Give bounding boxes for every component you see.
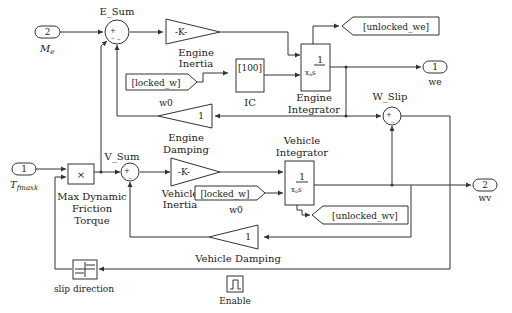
engine-integrator[interactable]: 1 xos xyxy=(301,44,330,91)
svg-text:–: – xyxy=(391,118,395,126)
svg-text:xos: xos xyxy=(305,69,316,77)
gain-vehicle-inertia[interactable]: -K- xyxy=(171,158,220,186)
inport-tfmaxk-label: Tfmaxk xyxy=(10,179,38,192)
e-sum-label: E_Sum xyxy=(99,6,135,18)
svg-text:1: 1 xyxy=(432,62,438,72)
svg-text:1: 1 xyxy=(299,172,305,182)
engine-integrator-label-1: Engine xyxy=(296,92,332,103)
sum-w-slip[interactable]: + – xyxy=(383,107,401,126)
product-label-2: Friction xyxy=(72,203,113,214)
svg-text:2: 2 xyxy=(45,27,51,37)
engine-inertia-label-1: Engine xyxy=(178,47,214,58)
inport-me[interactable]: 2 xyxy=(35,26,60,38)
svg-text:1: 1 xyxy=(245,232,251,242)
vehicle-inertia-label-2: Inertia xyxy=(163,199,197,210)
svg-text:[unlocked_we]: [unlocked_we] xyxy=(363,22,429,33)
outport-we-label: we xyxy=(428,77,441,87)
from-locked-w-2[interactable]: [locked_w] xyxy=(195,186,265,200)
v-sum-label: V_Sum xyxy=(104,151,141,163)
sum-v-sum[interactable]: + – xyxy=(121,163,139,182)
inport-me-label: Me xyxy=(39,43,54,56)
svg-text:1: 1 xyxy=(198,111,204,121)
simulink-diagram: 2 Me 1 Tfmaxk 1 we 2 wv + – – E_Sum + – … xyxy=(0,0,512,313)
outport-wv[interactable]: 2 xyxy=(473,179,497,191)
product-label-1: Max Dynamic xyxy=(57,191,127,202)
enable-label: Enable xyxy=(219,296,251,306)
svg-text:–: – xyxy=(128,174,132,182)
engine-damping-label-2: Damping xyxy=(163,144,210,155)
ic-label: IC xyxy=(244,97,256,108)
svg-text:-K-: -K- xyxy=(178,167,190,177)
vehicle-inertia-label-1: Vehicle xyxy=(161,188,199,199)
engine-damping-w0-label: w0 xyxy=(159,98,173,108)
from-locked-w-2-label: w0 xyxy=(229,205,243,215)
svg-text:1: 1 xyxy=(317,55,323,65)
svg-text:[100]: [100] xyxy=(238,63,262,73)
svg-text:1: 1 xyxy=(21,164,27,174)
svg-text:2: 2 xyxy=(482,180,488,190)
svg-text:[locked_w]: [locked_w] xyxy=(131,78,180,89)
slip-direction-label: slip direction xyxy=(54,284,114,294)
sum-e-sum[interactable]: + – – xyxy=(105,20,129,44)
inport-tfmaxk[interactable]: 1 xyxy=(12,163,36,175)
w-slip-label: W_Slip xyxy=(373,91,408,103)
gain-vehicle-damping[interactable]: 1 xyxy=(209,225,258,249)
svg-text:xos: xos xyxy=(291,186,302,194)
engine-damping-label-1: Engine xyxy=(168,132,204,143)
product-label-3: Torque xyxy=(74,215,110,226)
goto-unlocked-we[interactable]: [unlocked_we] xyxy=(342,17,439,35)
engine-integrator-label-2: Integrator xyxy=(288,104,341,115)
from-locked-w-1[interactable]: [locked_w] xyxy=(126,74,197,90)
vehicle-damping-label: Vehicle Damping xyxy=(194,253,281,264)
vehicle-integrator-label-2: Integrator xyxy=(276,147,329,158)
svg-text:×: × xyxy=(77,169,85,180)
svg-text:-K-: -K- xyxy=(175,27,187,37)
outport-wv-label: wv xyxy=(479,193,493,203)
goto-unlocked-wv[interactable]: [unlocked_wv] xyxy=(312,206,408,224)
vehicle-integrator-label-1: Vehicle xyxy=(283,135,321,146)
ic-block[interactable]: [100] xyxy=(236,59,264,92)
svg-text:[unlocked_wv]: [unlocked_wv] xyxy=(332,211,398,222)
svg-text:[locked_w]: [locked_w] xyxy=(200,189,249,200)
engine-inertia-label-2: Inertia xyxy=(179,58,213,69)
product-max-dynamic-friction[interactable]: × xyxy=(68,164,94,184)
outport-we[interactable]: 1 xyxy=(423,61,447,73)
svg-text:–: – xyxy=(117,35,121,43)
vehicle-integrator[interactable]: 1 xos xyxy=(285,161,314,205)
sign-block[interactable] xyxy=(73,260,97,279)
svg-text:–: – xyxy=(111,34,115,42)
enable-block[interactable] xyxy=(227,276,243,292)
gain-engine-inertia[interactable]: -K- xyxy=(166,19,220,44)
